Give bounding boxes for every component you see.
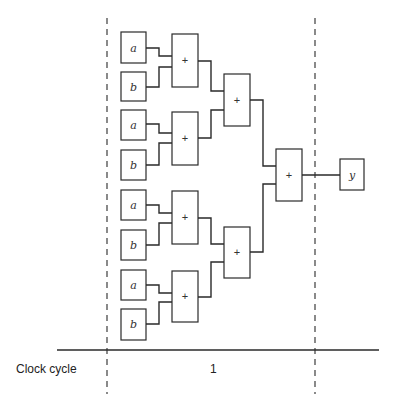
svg-text:+: + xyxy=(234,246,240,258)
svg-text:a: a xyxy=(130,119,137,132)
svg-text:a: a xyxy=(130,199,137,212)
svg-text:+: + xyxy=(286,169,292,181)
cycle-number: 1 xyxy=(210,362,217,376)
adder-l2-2: + xyxy=(224,227,250,278)
input-a2: a xyxy=(121,110,146,140)
wires-level3 xyxy=(250,100,276,252)
input-b3: b xyxy=(121,230,146,260)
svg-text:+: + xyxy=(182,290,188,302)
svg-text:b: b xyxy=(130,239,137,252)
output-y: y xyxy=(340,159,364,190)
clock-cycle-label: Clock cycle xyxy=(16,362,77,376)
svg-text:b: b xyxy=(130,318,137,331)
adder-l1-2: + xyxy=(172,112,198,165)
wires-level1 xyxy=(146,48,172,324)
svg-text:b: b xyxy=(130,81,137,94)
adder-l3: + xyxy=(276,149,302,201)
wires-level2 xyxy=(198,61,224,297)
input-a1: a xyxy=(121,32,146,63)
svg-text:+: + xyxy=(182,132,188,144)
input-b4: b xyxy=(121,309,146,340)
adder-tree-diagram: Clock cycle 1 a b a b xyxy=(0,0,394,404)
svg-text:b: b xyxy=(130,159,137,172)
input-b1: b xyxy=(121,72,146,101)
adder-l2-1: + xyxy=(224,74,250,126)
adder-l1-1: + xyxy=(172,34,198,87)
adder-l1-3: + xyxy=(172,191,198,244)
svg-text:a: a xyxy=(130,42,137,55)
svg-text:+: + xyxy=(234,94,240,106)
input-b2: b xyxy=(121,150,146,180)
input-a4: a xyxy=(121,270,146,300)
svg-text:+: + xyxy=(182,211,188,223)
svg-text:y: y xyxy=(348,169,356,182)
svg-text:+: + xyxy=(182,54,188,66)
svg-text:a: a xyxy=(130,279,137,292)
adder-l1-4: + xyxy=(172,271,198,322)
input-a3: a xyxy=(121,190,146,220)
